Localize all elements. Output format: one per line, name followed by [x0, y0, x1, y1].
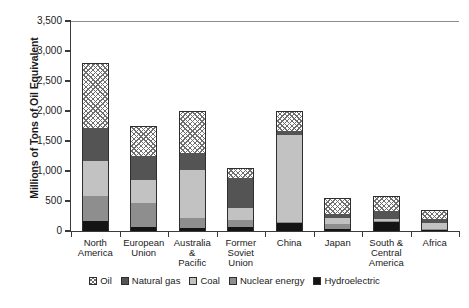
y-axis-tick	[65, 200, 71, 201]
bar-segment	[82, 128, 109, 161]
x-axis-tick	[459, 232, 460, 237]
bar-stack	[179, 21, 206, 231]
legend-swatch-icon	[313, 277, 321, 285]
bar-segment	[130, 203, 157, 227]
bar-stack	[324, 21, 351, 231]
bar-segment	[179, 218, 206, 228]
y-axis-tick-label: 1,000	[18, 166, 62, 176]
bar-segment	[421, 210, 448, 219]
bar-segment	[324, 229, 351, 231]
bar-segment	[179, 170, 206, 218]
bar-segment	[276, 222, 303, 223]
y-axis-tick	[65, 80, 71, 81]
bar-segment	[130, 126, 157, 156]
legend-item: Oil	[89, 275, 112, 286]
bar-segment	[227, 227, 254, 231]
bar-stack	[276, 21, 303, 231]
x-axis-tick	[411, 232, 412, 237]
legend-item: Nuclear energy	[229, 275, 304, 286]
bar-segment	[276, 223, 303, 231]
legend-label: Hydroelectric	[324, 275, 379, 286]
x-axis-tick	[265, 232, 266, 237]
bar-segment	[227, 220, 254, 227]
bar-segment	[276, 111, 303, 131]
x-axis-category-label: Africa	[407, 238, 463, 248]
y-axis-tick-label: 3,500	[18, 16, 62, 26]
legend-item: Natural gas	[121, 275, 181, 286]
legend-swatch-icon	[89, 277, 97, 285]
legend-swatch-icon	[229, 277, 237, 285]
y-axis-tick-label: 2,000	[18, 106, 62, 116]
bar-segment	[373, 196, 400, 211]
x-axis-tick	[120, 232, 121, 237]
y-axis-tick-label: 500	[18, 196, 62, 206]
bar-segment	[373, 219, 400, 221]
legend-label: Nuclear energy	[240, 275, 304, 286]
bar-stack	[82, 21, 109, 231]
y-axis-tick-label: 3,000	[18, 46, 62, 56]
bar-segment	[421, 223, 448, 229]
bar-segment	[373, 211, 400, 219]
bar-segment	[179, 111, 206, 153]
bar-segment	[179, 228, 206, 231]
y-axis-tick-label: 2,500	[18, 76, 62, 86]
bar-stack	[130, 21, 157, 231]
legend-swatch-icon	[189, 277, 197, 285]
y-axis-tick	[65, 110, 71, 111]
x-axis-tick	[362, 232, 363, 237]
bar-segment	[82, 196, 109, 221]
y-axis-tick-label: 0	[18, 226, 62, 236]
bar-segment	[130, 227, 157, 231]
bar-segment	[324, 218, 351, 225]
legend-item: Coal	[189, 275, 220, 286]
legend-label: Coal	[200, 275, 220, 286]
y-axis-title: Millions of Tons of Oil Equivalent	[28, 8, 40, 228]
bar-segment	[227, 178, 254, 208]
bar-segment	[82, 63, 109, 128]
bar-stack	[421, 21, 448, 231]
bar-segment	[421, 229, 448, 230]
bar-segment	[82, 161, 109, 196]
bar-segment	[130, 180, 157, 203]
bar-segment	[276, 135, 303, 222]
y-axis-tick	[65, 140, 71, 141]
y-axis-tick-label: 1,500	[18, 136, 62, 146]
bar-segment	[324, 214, 351, 218]
legend-swatch-icon	[121, 277, 129, 285]
bar-segment	[421, 219, 448, 223]
legend-item: Hydroelectric	[313, 275, 379, 286]
chart-legend: OilNatural gasCoalNuclear energyHydroele…	[0, 275, 469, 286]
x-axis-tick	[314, 232, 315, 237]
bar-segment	[373, 221, 400, 222]
bar-segment	[324, 198, 351, 214]
bar-stack	[373, 21, 400, 231]
bar-segment	[276, 131, 303, 135]
bar-segment	[179, 153, 206, 170]
plot-top-rule	[71, 21, 459, 22]
bar-segment	[421, 230, 448, 231]
bar-segment	[227, 208, 254, 220]
bar-segment	[82, 221, 109, 231]
bar-segment	[324, 224, 351, 229]
y-axis-tick	[65, 170, 71, 171]
y-axis-tick	[65, 20, 71, 21]
x-axis-tick	[217, 232, 218, 237]
y-axis-tick	[65, 50, 71, 51]
stacked-bar-chart: Millions of Tons of Oil Equivalent 05001…	[0, 0, 469, 308]
x-axis-tick	[168, 232, 169, 237]
bar-segment	[227, 168, 254, 178]
bar-segment	[373, 221, 400, 231]
legend-label: Natural gas	[132, 275, 181, 286]
bar-stack	[227, 21, 254, 231]
x-axis-tick	[71, 232, 72, 237]
bar-segment	[130, 156, 157, 180]
legend-label: Oil	[100, 275, 112, 286]
